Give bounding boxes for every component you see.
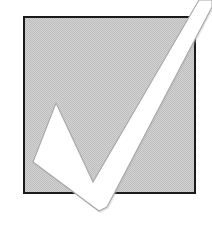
image-canvas: A white check mark with a thin gray outl… [0,0,212,225]
checkmark-graphic [0,0,212,225]
